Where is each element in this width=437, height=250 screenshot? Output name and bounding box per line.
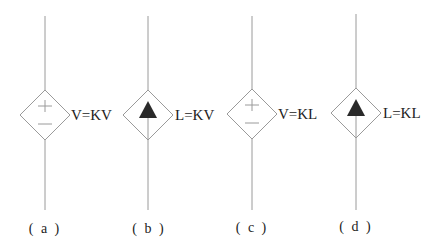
equation-c: V=KL [278, 106, 317, 122]
caption-a: ( a ) [29, 221, 62, 237]
source-a: V=KV ( a ) [20, 16, 112, 237]
equation-d: L=KL [383, 105, 421, 121]
source-b: L=KV ( b ) [123, 16, 214, 237]
diamond-a [20, 90, 70, 140]
caption-b: ( b ) [132, 221, 165, 237]
dependent-sources-diagram: V=KV ( a ) L=KV ( b ) V=KL ( c ) L=KL ( … [0, 0, 437, 250]
diamond-c [227, 89, 277, 139]
caption-d: ( d ) [339, 219, 372, 235]
equation-a: V=KV [71, 107, 112, 123]
source-c: V=KL ( c ) [227, 16, 317, 236]
equation-b: L=KV [175, 107, 214, 123]
source-d: L=KL ( d ) [331, 14, 421, 235]
caption-c: ( c ) [236, 220, 269, 236]
